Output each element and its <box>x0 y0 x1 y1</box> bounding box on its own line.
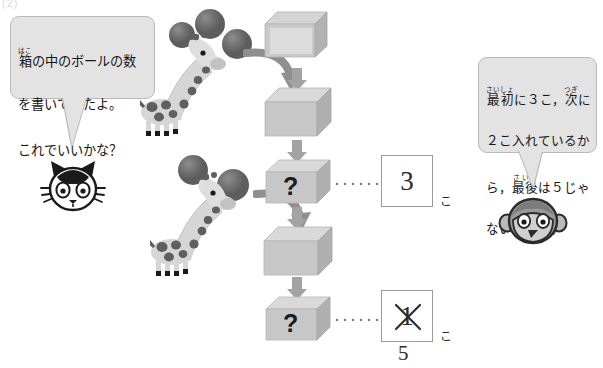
box-1 <box>263 10 329 69</box>
connector-dots-1 <box>333 181 379 185</box>
bubble-line: 箱はこの中のボールの数 <box>18 47 154 70</box>
answer-correction-2: 5 <box>398 341 409 366</box>
corner-label: (2) <box>2 0 18 9</box>
ruby-saisho: 最初さいしょ <box>486 93 514 107</box>
answer-box-2[interactable]: 1 <box>381 290 433 342</box>
bubble-line: を書いてみたよ。 <box>18 93 154 116</box>
box-icon <box>263 86 333 142</box>
speech-bubble-cat-tail <box>63 98 86 146</box>
answer-unit-1: こ <box>440 192 452 209</box>
connector-dots-2 <box>333 317 379 321</box>
speech-bubble-cat: 箱はこの中のボールの数 を書いてみたよ。 これでいいかな？ <box>10 16 155 99</box>
bubble-line: ２こ入れているか <box>486 130 596 152</box>
giraffe-top <box>140 8 255 142</box>
speech-bubble-monkey-tail <box>519 151 542 187</box>
monkey-face-icon <box>498 190 568 252</box>
ruby-tsugi: 次つぎ <box>565 93 578 107</box>
bubble-line: 最初さいしょに３こ，次つぎに <box>486 86 596 108</box>
box-4 <box>262 225 334 285</box>
character-cat <box>36 155 110 221</box>
answer-box-1[interactable]: 3 <box>381 155 433 207</box>
box-2 <box>263 86 333 146</box>
giraffe-bottom <box>150 148 265 282</box>
cat-face-icon <box>36 155 110 217</box>
speech-bubble-monkey: 最初さいしょに３こ，次つぎに ２こ入れているか ら，最後さいごは５じゃ ないかな… <box>478 57 597 153</box>
box-icon <box>262 225 334 281</box>
strikethrough-mark-icon <box>382 291 434 343</box>
answer-box-1-value: 3 <box>382 156 432 206</box>
giraffe-with-balls-icon <box>150 148 265 278</box>
worksheet-canvas: (2) 箱はこの中のボールの数 を書いてみたよ。 これでいいかな？ <box>0 0 603 368</box>
box-3: ? <box>264 158 332 212</box>
answer-unit-2: こ <box>440 327 452 344</box>
ruby-hako: 箱はこ <box>18 54 32 69</box>
box-3-question-mark: ? <box>283 172 298 201</box>
box-5-question-mark: ? <box>283 309 298 338</box>
giraffe-with-balls-icon <box>140 8 255 138</box>
box-5: ? <box>264 295 332 349</box>
character-monkey <box>498 190 568 256</box>
box-open-icon <box>263 10 329 65</box>
